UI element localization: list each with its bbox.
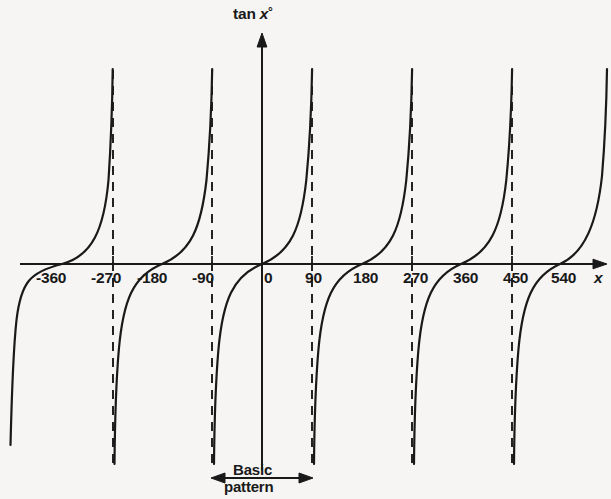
tangent-curves	[11, 69, 608, 464]
tick-label-0: 0	[264, 269, 272, 287]
tan-branch--360	[11, 69, 113, 445]
tick-label-450: 450	[503, 269, 528, 287]
tick-label--90: -90	[192, 269, 214, 287]
tick-label-540: 540	[551, 269, 576, 287]
x-axis-label: x	[594, 269, 602, 287]
measure-arrowhead-right	[299, 473, 313, 483]
tan-branch-180	[314, 69, 412, 464]
basic-pattern-label-line1: Basic	[233, 461, 272, 478]
graph-canvas	[0, 0, 611, 499]
y-axis-label-var: x	[260, 5, 268, 22]
y-axis-label: tanx°	[233, 5, 273, 23]
x-axis-arrowhead	[593, 259, 607, 269]
tan-branch--180	[115, 69, 213, 464]
measure-arrowhead-left	[211, 473, 225, 483]
tick-label-90: 90	[305, 269, 322, 287]
basic-pattern-label-line2: pattern	[224, 478, 273, 495]
y-axis-arrowhead	[257, 33, 267, 47]
tan-branch-0	[214, 69, 312, 464]
tick-label--270: -270	[91, 269, 121, 287]
tangent-graph-figure: -360 -270 -180 -90 0 90 180 270 360 450 …	[0, 0, 611, 499]
tick-label-360: 360	[453, 269, 478, 287]
y-axis-label-degree: °	[268, 5, 273, 19]
tick-label-270: 270	[403, 269, 428, 287]
tick-label-180: 180	[353, 269, 378, 287]
tick-label--180: -180	[137, 269, 167, 287]
axes	[20, 33, 607, 470]
y-axis-label-tan: tan	[233, 5, 256, 22]
tick-label--360: -360	[36, 269, 66, 287]
tan-branch-360	[414, 69, 512, 464]
